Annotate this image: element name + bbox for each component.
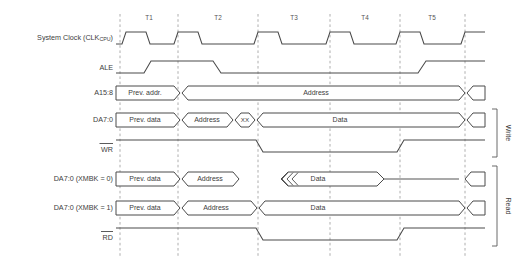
signal-label-a15-8: A15:8 xyxy=(94,88,113,97)
group-label-read: Read xyxy=(504,197,513,214)
waveform-rd xyxy=(116,228,485,240)
bus-label-data-write: Data xyxy=(333,116,348,123)
bus-label-address-write: Address xyxy=(194,116,220,123)
signal-row-rd: RD xyxy=(101,228,485,242)
signal-label-da7-0-xmbk0: DA7:0 (XMBK = 0) xyxy=(54,174,113,183)
signal-label-rd: RD xyxy=(103,233,113,242)
timing-diagram-root: T1 T2 T3 T4 T5 System Clock (CLKCPU) ALE… xyxy=(0,0,517,273)
bus-segment-a15-8-tail xyxy=(467,86,485,100)
cycle-label-t3: T3 xyxy=(290,14,298,21)
cycle-label-t1: T1 xyxy=(145,14,153,21)
signal-row-da7-0-xmbk0: DA7:0 (XMBK = 0) Prev. data Address Data xyxy=(54,172,485,186)
bracket-write xyxy=(492,109,497,157)
gridlines xyxy=(120,14,465,258)
signal-label-system-clock: System Clock (CLKCPU) xyxy=(37,33,113,43)
signal-row-wr: WR xyxy=(100,140,486,154)
signal-row-da7-0-xmbk1: DA7:0 (XMBK = 1) Prev. data Address Data xyxy=(54,201,485,215)
cycle-labels: T1 T2 T3 T4 T5 xyxy=(145,14,436,21)
bus-segment-xmbk1-tail xyxy=(467,201,485,215)
signal-row-system-clock: System Clock (CLKCPU) xyxy=(37,32,485,44)
waveform-ale xyxy=(116,61,485,73)
bus-label-prev-data-xmbk1: Prev. data xyxy=(129,204,160,211)
bus-label-data-xmbk0: Data xyxy=(311,175,326,182)
bus-segment-data-write xyxy=(257,113,465,127)
group-label-write: Write xyxy=(504,125,513,142)
signal-label-wr: WR xyxy=(101,145,113,154)
bus-segment-data-xmbk1 xyxy=(259,201,465,215)
bus-label-data-xmbk1: Data xyxy=(311,204,326,211)
signal-label-ale: ALE xyxy=(99,63,113,72)
bracket-read xyxy=(492,166,497,246)
cycle-label-t2: T2 xyxy=(214,14,222,21)
waveform-system-clock xyxy=(116,32,485,44)
group-brackets: Write Read xyxy=(492,109,513,246)
signal-label-da7-0-xmbk1: DA7:0 (XMBK = 1) xyxy=(54,203,113,212)
bus-segment-da7-0-write-tail xyxy=(467,113,485,127)
cycle-label-t4: T4 xyxy=(361,14,369,21)
bus-label-xx: XX xyxy=(241,116,249,123)
bus-label-address-xmbk1: Address xyxy=(203,204,229,211)
bus-label-prev-data-xmbk0: Prev. data xyxy=(129,175,160,182)
cycle-label-t5: T5 xyxy=(428,14,436,21)
waveform-wr xyxy=(116,140,485,152)
bus-label-address: Address xyxy=(303,89,329,96)
signal-label-da7-0: DA7:0 xyxy=(93,115,113,124)
timing-diagram-canvas: T1 T2 T3 T4 T5 System Clock (CLKCPU) ALE… xyxy=(0,0,517,273)
bus-segment-xmbk0-tail xyxy=(465,172,485,186)
bus-label-prev-data-write: Prev. data xyxy=(129,116,160,123)
signal-row-a15-8: A15:8 Prev. addr. Address xyxy=(94,86,485,100)
bus-label-address-xmbk0: Address xyxy=(197,175,223,182)
bus-label-prev-addr: Prev. addr. xyxy=(128,89,161,96)
signal-row-da7-0-write: DA7:0 Prev. data Address XX Data xyxy=(93,113,485,127)
signal-row-ale: ALE xyxy=(99,61,485,73)
